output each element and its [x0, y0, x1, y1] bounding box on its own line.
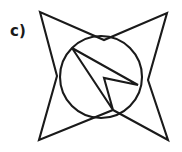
four-pointed-concave-star [39, 12, 168, 140]
geometry-diagram [0, 0, 182, 152]
inner-lightning-polygon [72, 48, 138, 110]
figure-panel: c) [0, 0, 182, 152]
